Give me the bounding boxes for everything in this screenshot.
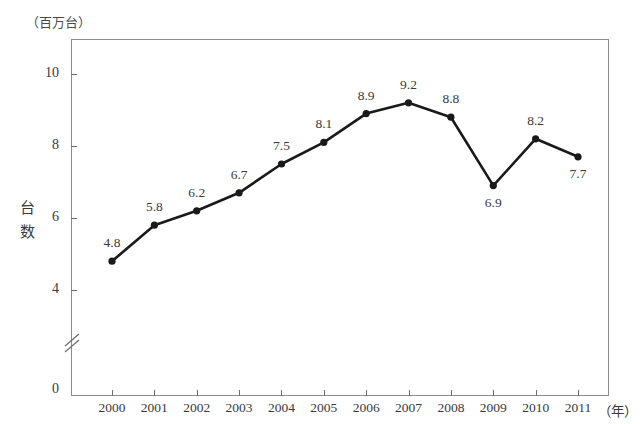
plot-area-frame: [71, 39, 609, 396]
y-tick-label-0: 0: [29, 381, 59, 397]
data-label-2005: 8.1: [304, 116, 344, 132]
y-axis-unit-label: （百万台）: [26, 12, 91, 31]
x-tick-label-2005: 2005: [301, 400, 347, 416]
y-tick-label-10: 10: [29, 65, 59, 81]
x-tick-label-2001: 2001: [131, 400, 177, 416]
data-label-2003: 6.7: [219, 167, 259, 183]
x-tick-label-2008: 2008: [428, 400, 474, 416]
x-tick-label-2003: 2003: [216, 400, 262, 416]
y-tick-mark-4: [71, 290, 77, 291]
x-tick-label-2004: 2004: [258, 400, 304, 416]
data-label-2004: 7.5: [261, 138, 301, 154]
x-tick-mark-2001: [154, 390, 155, 396]
x-tick-label-2000: 2000: [89, 400, 135, 416]
y-tick-label-6: 6: [29, 209, 59, 225]
y-tick-mark-6: [71, 218, 77, 219]
data-label-2010: 8.2: [516, 113, 556, 129]
x-tick-mark-2011: [578, 390, 579, 396]
x-tick-label-2002: 2002: [174, 400, 220, 416]
y-tick-mark-10: [71, 74, 77, 75]
data-label-2007: 9.2: [389, 77, 429, 93]
x-tick-mark-2006: [366, 390, 367, 396]
x-tick-mark-2000: [112, 390, 113, 396]
data-label-2002: 6.2: [177, 185, 217, 201]
data-label-2001: 5.8: [134, 199, 174, 215]
data-label-2009: 6.9: [473, 195, 513, 211]
x-tick-mark-2004: [281, 390, 282, 396]
data-label-2006: 8.9: [346, 88, 386, 104]
data-label-2000: 4.8: [92, 235, 132, 251]
data-label-2011: 7.7: [558, 166, 598, 182]
x-tick-mark-2010: [536, 390, 537, 396]
axis-break-icon: [63, 330, 81, 356]
x-axis-unit-label: （年）: [598, 400, 637, 420]
x-tick-label-2011: 2011: [555, 400, 601, 416]
data-label-2008: 8.8: [431, 91, 471, 107]
y-tick-mark-8: [71, 146, 77, 147]
line-chart: （百万台） 台 数 108640 20002001200220032004200…: [0, 0, 640, 424]
y-tick-label-4: 4: [29, 281, 59, 297]
x-tick-label-2006: 2006: [343, 400, 389, 416]
x-tick-mark-2007: [409, 390, 410, 396]
x-tick-mark-2005: [324, 390, 325, 396]
x-tick-mark-2003: [239, 390, 240, 396]
y-tick-label-8: 8: [29, 137, 59, 153]
x-tick-label-2009: 2009: [470, 400, 516, 416]
x-tick-mark-2008: [451, 390, 452, 396]
x-tick-label-2007: 2007: [386, 400, 432, 416]
x-tick-mark-2002: [197, 390, 198, 396]
x-tick-mark-2009: [493, 390, 494, 396]
x-tick-label-2010: 2010: [513, 400, 559, 416]
